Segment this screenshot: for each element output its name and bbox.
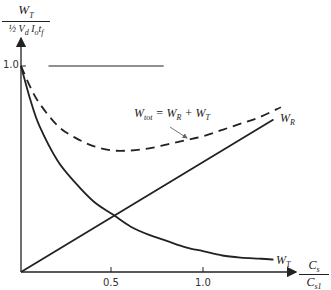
annotation-wr: WR xyxy=(280,111,295,127)
annotation-wtot: Wtot = WR + WT xyxy=(134,106,210,122)
wtot-annotation-arrow xyxy=(170,127,187,138)
y-axis-label: WT ½ Vd Iotf xyxy=(2,2,50,37)
annotation-wt: WT xyxy=(276,253,290,269)
y-axis-label-numerator: WT xyxy=(2,2,50,22)
x-axis-label-numerator: Cs xyxy=(299,258,329,275)
x-tick-label-10: 1.0 xyxy=(195,277,211,288)
chart-plot-area xyxy=(0,0,331,290)
y-tick-label-1: 1.0 xyxy=(3,59,19,70)
y-axis-label-denominator: ½ Vd Iotf xyxy=(2,22,50,37)
x-axis-label: Cs Cs1 xyxy=(299,258,329,290)
series-w-r xyxy=(21,120,274,272)
x-tick-label-05: 0.5 xyxy=(103,277,119,288)
x-axis-label-denominator: Cs1 xyxy=(299,275,329,290)
series-w-t xyxy=(21,66,274,260)
series-layer xyxy=(21,66,281,272)
